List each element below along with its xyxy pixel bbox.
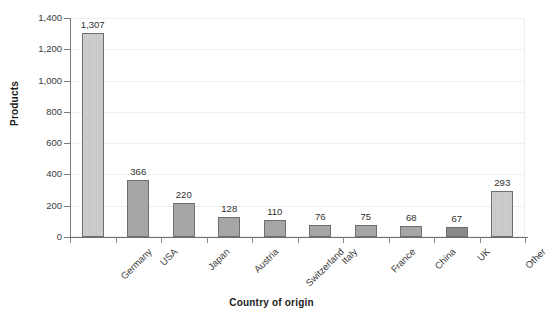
category-label-italy: Italy bbox=[339, 246, 359, 266]
x-axis-title: Country of origin bbox=[0, 297, 543, 308]
category-label-other: Other bbox=[523, 246, 548, 271]
bar-austria bbox=[218, 217, 240, 237]
x-axis-tick bbox=[252, 238, 253, 243]
x-axis-tick bbox=[207, 238, 208, 243]
gridline bbox=[70, 143, 525, 144]
gridline bbox=[70, 49, 525, 50]
category-label-austria: Austria bbox=[252, 246, 281, 275]
bar-uk bbox=[446, 227, 468, 237]
bar-switzerland bbox=[264, 220, 286, 237]
y-axis-title: Products bbox=[9, 64, 20, 144]
y-axis-tick-label: 400 bbox=[22, 169, 62, 179]
y-axis-tick-labels: 02004006008001,0001,2001,400 bbox=[18, 0, 62, 316]
category-label-uk: UK bbox=[475, 246, 492, 263]
bar-italy bbox=[309, 225, 331, 237]
y-axis-tick-label: 0 bbox=[22, 232, 62, 242]
x-axis-tick bbox=[298, 238, 299, 243]
y-axis-tick bbox=[64, 143, 70, 144]
y-axis-tick bbox=[64, 81, 70, 82]
y-axis-tick-label: 800 bbox=[22, 107, 62, 117]
x-axis-tick bbox=[480, 238, 481, 243]
y-axis-tick bbox=[64, 112, 70, 113]
x-axis-tick bbox=[434, 238, 435, 243]
plot-area: 1,30736622012811076756867293 bbox=[70, 18, 525, 237]
category-label-switzerland: Switzerland bbox=[303, 246, 346, 289]
y-axis-tick bbox=[64, 174, 70, 175]
y-axis-tick-label: 200 bbox=[22, 201, 62, 211]
x-axis-tick bbox=[389, 238, 390, 243]
y-axis-line bbox=[70, 18, 71, 238]
x-axis-tick bbox=[525, 238, 526, 243]
gridline bbox=[70, 18, 525, 19]
y-axis-tick-label: 1,200 bbox=[22, 44, 62, 54]
y-axis-tick-label: 600 bbox=[22, 138, 62, 148]
bar-value-label: 293 bbox=[472, 178, 532, 188]
y-axis-tick-label: 1,400 bbox=[22, 13, 62, 23]
y-axis-tick-label: 1,000 bbox=[22, 76, 62, 86]
bar-value-label: 67 bbox=[427, 214, 487, 224]
bar-france bbox=[355, 225, 377, 237]
bar-japan bbox=[173, 203, 195, 237]
category-label-france: France bbox=[388, 246, 417, 275]
bar-value-label: 366 bbox=[108, 167, 168, 177]
bar-china bbox=[400, 226, 422, 237]
category-label-usa: USA bbox=[158, 246, 180, 268]
x-axis-tick bbox=[161, 238, 162, 243]
bar-germany bbox=[82, 33, 104, 237]
x-axis-tick bbox=[70, 238, 71, 243]
category-label-germany: Germany bbox=[118, 246, 153, 281]
bar-usa bbox=[127, 180, 149, 237]
y-axis-tick bbox=[64, 206, 70, 207]
category-label-china: China bbox=[433, 246, 458, 271]
category-label-japan: Japan bbox=[205, 246, 231, 272]
x-axis-tick bbox=[116, 238, 117, 243]
gridline bbox=[70, 112, 525, 113]
bar-value-label: 1,307 bbox=[63, 20, 123, 30]
gridline bbox=[70, 81, 525, 82]
y-axis-tick bbox=[64, 49, 70, 50]
x-axis-line bbox=[70, 237, 528, 238]
x-axis-tick bbox=[343, 238, 344, 243]
bar-value-label: 220 bbox=[154, 190, 214, 200]
y-axis-tick bbox=[64, 18, 70, 19]
y-axis-tick bbox=[64, 237, 70, 238]
bar-other bbox=[491, 191, 513, 237]
